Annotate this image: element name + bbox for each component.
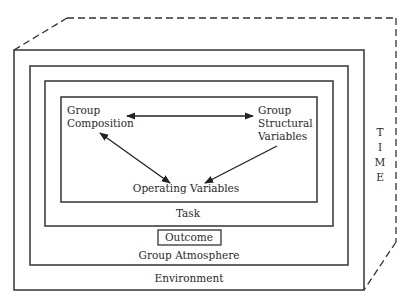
group-composition-node: Group Composition — [67, 104, 134, 130]
group-structural-line3: Variables — [258, 130, 313, 143]
composition-operating-arrow — [100, 133, 170, 183]
operating-variables-node: Operating Variables — [133, 182, 239, 195]
time-letter: T — [374, 125, 386, 140]
group-structural-line2: Structural — [258, 117, 313, 130]
group-structural-line1: Group — [258, 104, 313, 117]
structural-operating-arrow — [205, 146, 277, 183]
outcome-label: Outcome — [165, 231, 213, 244]
task-box — [45, 81, 333, 226]
group-composition-line2: Composition — [67, 117, 134, 130]
group-structural-variables-node: Group Structural Variables — [258, 104, 313, 143]
time-letter: M — [374, 155, 386, 170]
task-label: Task — [176, 207, 200, 220]
time-letter: E — [374, 170, 386, 185]
group-composition-line1: Group — [67, 104, 134, 117]
group-atmosphere-label: Group Atmosphere — [139, 249, 240, 262]
environment-label: Environment — [155, 272, 224, 285]
time-letter: I — [374, 140, 386, 155]
time-label: T I M E — [374, 125, 386, 185]
